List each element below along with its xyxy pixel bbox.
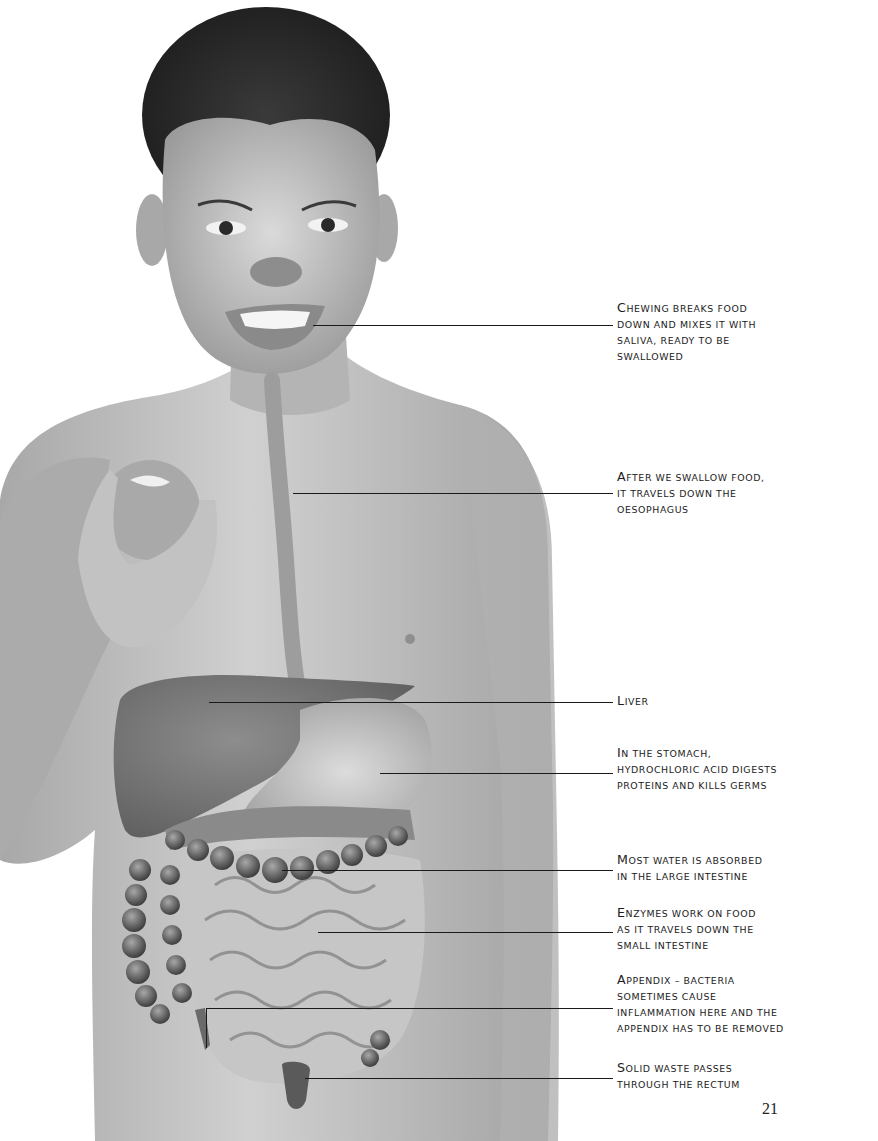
page-number: 21 — [762, 1100, 778, 1118]
leader-line-appendix — [207, 1008, 613, 1009]
leader-line-liver — [209, 702, 613, 703]
leader-line-stomach — [380, 773, 613, 774]
label-liver: Liver — [617, 693, 877, 710]
leader-line-small-intestine — [318, 932, 613, 933]
leader-line-mouth — [313, 325, 613, 326]
leader-line-oesophagus — [293, 493, 613, 494]
leader-line-rectum — [305, 1078, 613, 1079]
nose — [250, 257, 302, 287]
label-stomach: In the stomach, hydrochloric acid digest… — [617, 745, 877, 794]
label-large-intestine: Most water is absorbed in the large inte… — [617, 852, 877, 885]
label-small-intestine: Enzymes work on food as it travels down … — [617, 905, 877, 954]
label-appendix: Appendix – bacteria sometimes cause infl… — [617, 972, 877, 1037]
label-rectum: Solid waste passes through the rectum — [617, 1060, 877, 1093]
digestive-system-illustration — [0, 0, 878, 1141]
label-mouth: Chewing breaks food down and mixes it wi… — [617, 300, 877, 365]
leader-line-appendix-drop — [206, 1008, 207, 1048]
label-oesophagus: After we swallow food, it travels down t… — [617, 469, 877, 518]
leader-line-large-intestine — [282, 870, 613, 871]
